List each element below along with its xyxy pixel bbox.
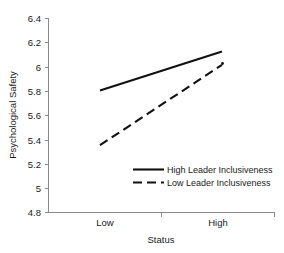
y-tick-label-5-4: 5.4 — [28, 135, 41, 146]
y-tick-label-4-8: 4.8 — [28, 207, 41, 218]
chart-background — [0, 0, 284, 253]
y-tick-label-5-6: 5.6 — [28, 110, 41, 121]
series-endpoint-marker — [221, 62, 224, 65]
chart-container: 6.4 6.2 6 5.8 5.6 5.4 5.2 5 4.8 Low High… — [0, 0, 284, 253]
y-tick-label-6-4: 6.4 — [28, 13, 41, 24]
legend-label-low-leader-inclusiveness: Low Leader Inclusiveness — [167, 178, 271, 188]
y-axis-title: Psychological Safety — [7, 71, 18, 159]
y-tick-label-5-8: 5.8 — [28, 86, 41, 97]
y-tick-label-6-2: 6.2 — [28, 37, 41, 48]
y-tick-label-6: 6 — [36, 62, 41, 73]
psychological-safety-line-chart: 6.4 6.2 6 5.8 5.6 5.4 5.2 5 4.8 Low High… — [0, 0, 284, 253]
x-tick-label-high: High — [208, 217, 228, 228]
x-axis-title: Status — [148, 234, 175, 245]
x-tick-label-low: Low — [96, 217, 114, 228]
y-tick-label-5: 5 — [36, 183, 41, 194]
legend-label-high-leader-inclusiveness: High Leader Inclusiveness — [167, 165, 273, 175]
y-tick-label-5-2: 5.2 — [28, 159, 41, 170]
